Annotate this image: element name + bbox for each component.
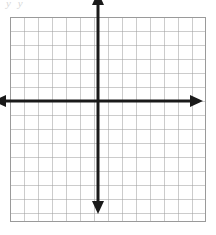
x-axis-right-arrowhead	[190, 95, 203, 107]
x-axis-left-arrowhead	[0, 95, 6, 107]
y-axis-bottom-arrowhead	[92, 201, 104, 214]
y-axis-top-arrowhead	[92, 0, 104, 5]
y-axis	[92, 0, 104, 214]
x-axis	[0, 95, 203, 107]
axes-overlay	[0, 0, 206, 218]
coordinate-plane-figure: y y	[0, 0, 216, 235]
